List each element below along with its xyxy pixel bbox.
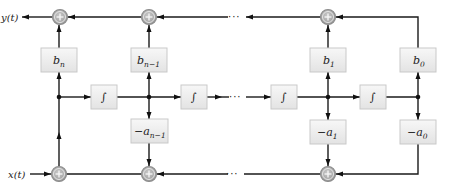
svg-text:∫: ∫	[370, 91, 376, 104]
gain-box-a-1: −a1	[310, 120, 346, 144]
top-sum-n-1	[142, 10, 157, 25]
gain-box-b-0: b0	[400, 48, 436, 72]
input-label: x(t)	[8, 169, 26, 180]
gain-box-b-n-1: bn−1	[131, 48, 167, 72]
top-sum-n	[53, 10, 68, 25]
svg-text:∫: ∫	[101, 91, 107, 104]
bottom-ellipsis: ···	[226, 168, 239, 179]
integrator-box-4: ∫	[360, 85, 386, 109]
integrator-box-3: ∫	[271, 85, 297, 109]
bottom-sum-input	[52, 167, 67, 182]
svg-text:∫: ∫	[281, 91, 287, 104]
gain-box-a-n-1: −an−1	[131, 119, 168, 143]
top-sum-1	[321, 10, 336, 25]
wires	[22, 17, 418, 174]
gain-box-a-0: −a0	[400, 120, 436, 144]
gain-box-b-1: b1	[310, 48, 346, 72]
block-diagram: ··· ··· ··· y(t) x(t) bn bn−1 b1	[0, 0, 453, 194]
integrator-box-1: ∫	[91, 85, 117, 109]
output-label: y(t)	[0, 12, 19, 23]
middle-ellipsis: ···	[229, 91, 242, 102]
top-ellipsis: ···	[228, 11, 241, 22]
bottom-sum-n-1	[142, 167, 157, 182]
integrator-box-2: ∫	[181, 85, 207, 109]
svg-text:∫: ∫	[191, 91, 197, 104]
bottom-sum-1	[321, 167, 336, 182]
gain-box-b-n: bn	[41, 48, 77, 72]
